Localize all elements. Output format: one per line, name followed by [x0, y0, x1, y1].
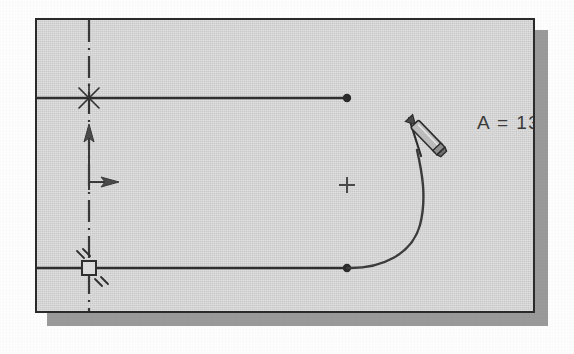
arc-stroke [347, 150, 423, 268]
pencil-cursor[interactable] [405, 114, 448, 158]
cad-sketch-canvas[interactable]: A = 132.8 [35, 18, 535, 313]
arc-center-crosshair [339, 177, 355, 193]
horizontal-direction-arrow[interactable] [89, 177, 119, 187]
arc-being-drawn[interactable] [347, 150, 423, 268]
scanned-figure: A = 132.8 [0, 0, 574, 354]
pencil-body-group [405, 114, 448, 158]
vertical-direction-arrow[interactable] [84, 124, 94, 190]
angle-readout-label: A = 132.8 [477, 112, 535, 134]
fixed-square-box [82, 261, 96, 275]
top-horizontal-line[interactable] [37, 94, 351, 102]
sketch-geometry [37, 20, 535, 313]
top-line-endpoint-dot[interactable] [343, 94, 351, 102]
